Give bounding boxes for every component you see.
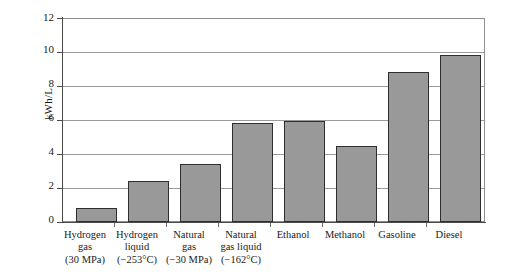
x-category-line: Methanol <box>318 229 372 241</box>
x-tick-mark-6 <box>374 223 375 227</box>
x-category-line: (−30 MPa) <box>162 254 216 266</box>
x-tick-mark-4 <box>270 223 271 227</box>
x-category-line: Ethanol <box>266 229 320 241</box>
y-tick-label-6: 6 <box>28 112 54 123</box>
bars-layer <box>62 18 485 222</box>
x-category-label-natural-gas: Natural gas (−30 MPa) <box>162 229 216 266</box>
bar-hydrogen-liquid[interactable] <box>128 181 169 222</box>
x-category-line: Natural <box>214 229 268 241</box>
bar-gasoline[interactable] <box>388 72 429 222</box>
y-tick-label-2: 2 <box>28 180 54 191</box>
x-tick-mark-1 <box>114 223 115 227</box>
x-tick-mark-3 <box>218 223 219 227</box>
bar-diesel[interactable] <box>440 55 481 222</box>
x-category-line: gas <box>58 241 112 253</box>
x-category-line: (30 MPa) <box>58 254 112 266</box>
x-category-label-ethanol: Ethanol <box>266 229 320 241</box>
energy-density-bar-chart: kWh/L 0 2 4 6 8 10 12 Hydroge <box>0 0 506 277</box>
x-category-label-diesel: Diesel <box>422 229 476 241</box>
x-category-label-gasoline: Gasoline <box>370 229 424 241</box>
y-tick-label-0: 0 <box>28 214 54 225</box>
x-category-line: (−162°C) <box>214 254 268 266</box>
x-tick-mark-7 <box>426 223 427 227</box>
x-category-line: Diesel <box>422 229 476 241</box>
x-category-line: Natural <box>162 229 216 241</box>
x-tick-mark-2 <box>166 223 167 227</box>
x-category-line: (−253°C) <box>110 254 164 266</box>
x-category-line: Hydrogen <box>58 229 112 241</box>
bar-natural-gas-liquid[interactable] <box>232 123 273 222</box>
y-tick-label-12: 12 <box>28 12 54 23</box>
x-axis-line <box>62 222 486 223</box>
x-category-label-natural-gas-liquid: Natural gas liquid (−162°C) <box>214 229 268 266</box>
bar-natural-gas[interactable] <box>180 164 221 222</box>
x-category-label-hydrogen-gas: Hydrogen gas (30 MPa) <box>58 229 112 266</box>
bar-ethanol[interactable] <box>284 121 325 222</box>
x-category-line: Hydrogen <box>110 229 164 241</box>
x-category-line: liquid <box>110 241 164 253</box>
y-tick-label-8: 8 <box>28 78 54 89</box>
x-category-line: gas <box>162 241 216 253</box>
x-category-label-methanol: Methanol <box>318 229 372 241</box>
y-tick-label-10: 10 <box>28 44 54 55</box>
bar-hydrogen-gas[interactable] <box>76 208 117 222</box>
x-category-line: Gasoline <box>370 229 424 241</box>
x-category-label-hydrogen-liquid: Hydrogen liquid (−253°C) <box>110 229 164 266</box>
x-category-line: gas liquid <box>214 241 268 253</box>
bar-methanol[interactable] <box>336 146 377 223</box>
y-tick-label-4: 4 <box>28 146 54 157</box>
x-tick-mark-5 <box>322 223 323 227</box>
